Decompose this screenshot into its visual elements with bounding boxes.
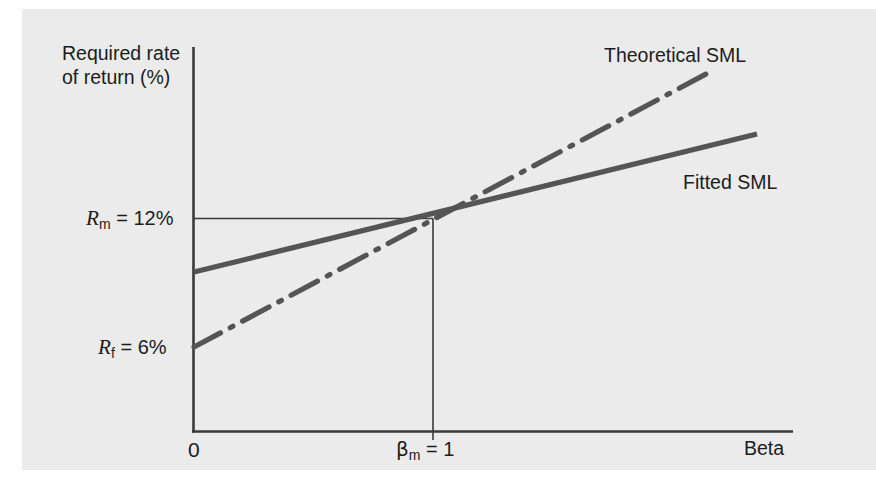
series-line-fitted-sml bbox=[194, 134, 757, 272]
market-return-subscript: m bbox=[99, 216, 111, 232]
figure-container: Required rate of return (%) Beta 0 βm = … bbox=[0, 0, 876, 503]
x-axis-tick-origin: 0 bbox=[188, 437, 200, 463]
y-axis-title-line1: Required rate bbox=[62, 42, 180, 64]
legend-label-theoretical-sml: Theoretical SML bbox=[604, 44, 746, 68]
y-axis-tick-risk-free-rate: Rf = 6% bbox=[98, 335, 167, 362]
x-axis-title: Beta bbox=[744, 437, 784, 461]
beta-symbol: β bbox=[396, 437, 409, 461]
beta-value: = 1 bbox=[420, 438, 454, 460]
risk-free-symbol: R bbox=[98, 335, 111, 359]
y-axis-tick-market-return: Rm = 12% bbox=[86, 206, 173, 233]
market-return-symbol: R bbox=[86, 206, 99, 230]
y-axis-title: Required rate of return (%) bbox=[62, 42, 180, 90]
market-return-value: = 12% bbox=[111, 207, 174, 229]
y-axis-title-line2: of return (%) bbox=[62, 66, 170, 88]
risk-free-value: = 6% bbox=[115, 336, 167, 358]
x-axis-tick-market-beta: βm = 1 bbox=[396, 437, 454, 464]
legend-label-fitted-sml: Fitted SML bbox=[683, 171, 777, 195]
beta-subscript: m bbox=[409, 447, 421, 463]
